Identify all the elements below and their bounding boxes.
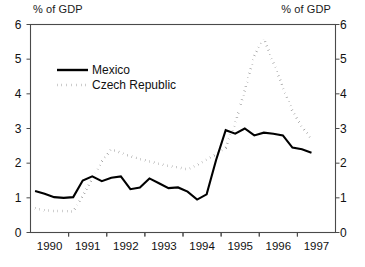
y-axis-right-tick: 4 bbox=[340, 88, 356, 100]
y-axis-left-tick: 3 bbox=[10, 123, 26, 135]
legend-label-mexico: Mexico bbox=[92, 64, 130, 76]
x-axis-tick: 1997 bbox=[295, 240, 337, 252]
y-axis-left-tick: 1 bbox=[10, 192, 26, 204]
y-axis-left-tick: 5 bbox=[10, 53, 26, 65]
x-axis-tick: 1995 bbox=[219, 240, 261, 252]
y-axis-left-tick: 6 bbox=[10, 19, 26, 31]
x-axis-tick: 1996 bbox=[257, 240, 299, 252]
plot-frame bbox=[31, 25, 336, 233]
legend-label-czech-republic: Czech Republic bbox=[92, 79, 176, 91]
x-axis-tick: 1990 bbox=[29, 240, 71, 252]
plot-canvas bbox=[0, 0, 365, 267]
y-axis-right-tick: 5 bbox=[340, 53, 356, 65]
y-axis-right-tick: 2 bbox=[340, 157, 356, 169]
legend-item-czech-republic: Czech Republic bbox=[57, 77, 176, 92]
legend-swatch-solid-icon bbox=[57, 64, 88, 76]
y-axis-right-tick: 6 bbox=[340, 19, 356, 31]
chart-legend: Mexico Czech Republic bbox=[57, 62, 176, 92]
x-axis-tick: 1994 bbox=[181, 240, 223, 252]
legend-item-mexico: Mexico bbox=[57, 62, 176, 77]
chart-figure: % of GDP % of GDP 0123456 0123456 199019… bbox=[0, 0, 365, 267]
y-axis-left-tick: 0 bbox=[10, 227, 26, 239]
x-axis-tick: 1992 bbox=[105, 240, 147, 252]
y-axis-right-tick: 1 bbox=[340, 192, 356, 204]
y-axis-left-tick: 2 bbox=[10, 157, 26, 169]
series-line-mexico bbox=[35, 129, 311, 200]
y-axis-left-tick: 4 bbox=[10, 88, 26, 100]
legend-swatch-dotted-icon bbox=[57, 79, 88, 91]
y-axis-right-tick: 0 bbox=[340, 227, 356, 239]
y-axis-right-tick: 3 bbox=[340, 123, 356, 135]
axis-tick-marks bbox=[27, 25, 340, 237]
x-axis-tick: 1991 bbox=[67, 240, 109, 252]
x-axis-tick: 1993 bbox=[143, 240, 185, 252]
